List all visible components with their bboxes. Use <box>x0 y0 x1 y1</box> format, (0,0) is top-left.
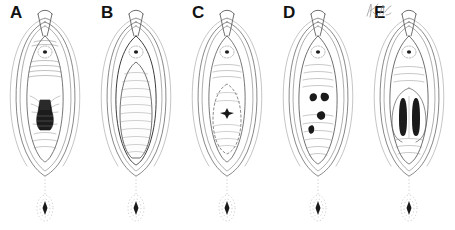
panel-b-lower-marker <box>134 201 139 215</box>
panel-e: E <box>364 0 455 230</box>
panel-c-dark-spot <box>220 108 234 119</box>
panel-e-artwork <box>364 0 455 230</box>
panel-d-spot-1 <box>310 93 318 101</box>
panel-d-spot-4 <box>308 125 314 133</box>
panel-a-artwork <box>0 0 91 230</box>
panel-a-lower-marker <box>43 201 48 215</box>
panel-d-artwork <box>273 0 364 230</box>
panel-c-inner-oval <box>213 84 241 154</box>
panel-e-lobe-left <box>399 98 407 136</box>
panel-d-dark-spots <box>308 93 329 134</box>
panel-d-lower-marker <box>316 201 321 215</box>
panel-d: D <box>273 0 364 230</box>
panel-c-lower-marker <box>225 201 230 215</box>
artist-signature <box>367 4 391 18</box>
panel-e-dark-lobes <box>399 96 420 138</box>
panel-e-lobe-right <box>412 98 420 136</box>
panel-a-dark-mass <box>37 100 54 130</box>
panel-c-artwork <box>182 0 273 230</box>
panel-b: B <box>91 0 182 230</box>
figure-panel-row: A <box>0 0 455 230</box>
panel-e-lower-marker <box>407 201 412 215</box>
panel-c: C <box>182 0 273 230</box>
panel-d-spot-2 <box>321 93 329 102</box>
panel-a: A <box>0 0 91 230</box>
panel-d-spot-3 <box>317 111 325 119</box>
panel-b-large-oval <box>120 62 152 158</box>
panel-b-artwork <box>91 0 182 230</box>
